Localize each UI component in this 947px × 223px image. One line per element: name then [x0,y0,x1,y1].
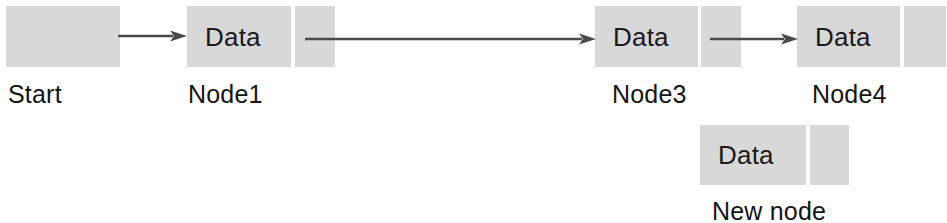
node-node4-caption: Node4 [812,82,887,107]
node-new-node-data-cell: Data [700,125,806,185]
node-node4-data-label: Data [797,24,871,50]
node-new-node-data-label: Data [700,142,774,168]
node-start-caption: Start [8,82,62,107]
node-node3-data-cell: Data [595,6,698,67]
node-node4-data-cell: Data [797,6,900,67]
node-start-pointer-cell [6,6,120,67]
node-node3-caption: Node3 [612,82,687,107]
node-node1-caption: Node1 [188,82,263,107]
node-node3-data-label: Data [595,24,669,50]
node-new-node-caption: New node [712,199,826,223]
linked-list-diagram: StartDataNode1DataNode3DataNode4DataNew … [0,0,947,223]
node-node4-pointer-cell [904,6,946,67]
node-new-node-pointer-cell [810,125,849,185]
node-node1-data-cell: Data [187,6,291,67]
arrow-node1-to-node3 [305,29,596,49]
arrow-start-to-node1 [118,26,187,46]
node-node1-data-label: Data [187,24,261,50]
node-node1-pointer-cell [295,6,335,67]
node-node3-pointer-cell [701,6,741,67]
